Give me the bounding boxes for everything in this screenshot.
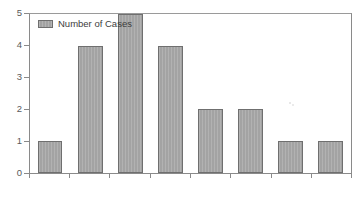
- bar: [198, 109, 223, 173]
- x-axis-tick-mark-4: [190, 174, 191, 178]
- bar: [118, 14, 143, 173]
- x-axis-tick-mark-7: [311, 174, 312, 178]
- y-axis-tick-label-5: 5: [4, 8, 22, 18]
- bar: [158, 46, 183, 173]
- plot-area: [29, 13, 352, 174]
- legend: Number of Cases: [36, 18, 134, 30]
- legend-label: Number of Cases: [58, 19, 132, 29]
- x-axis-tick-mark-8: [351, 174, 352, 178]
- bar: [38, 141, 63, 173]
- y-axis-tick-label-0: 0: [4, 168, 22, 178]
- bar: [78, 46, 103, 173]
- x-axis-tick-mark-1: [69, 174, 70, 178]
- bar: [278, 141, 303, 173]
- x-axis-tick-mark-0: [29, 174, 30, 178]
- bar-chart: 5 4 3 2 1 0 Number of Cases: [0, 0, 361, 197]
- y-axis-tick-label-4: 4: [4, 40, 22, 50]
- x-axis-tick-mark-2: [109, 174, 110, 178]
- y-axis: 5 4 3 2 1 0: [0, 0, 22, 197]
- x-axis-tick-mark-6: [271, 174, 272, 178]
- y-axis-tick-label-1: 1: [4, 136, 22, 146]
- y-axis-tick-label-2: 2: [4, 104, 22, 114]
- x-axis-tick-mark-3: [150, 174, 151, 178]
- bars-layer: [30, 14, 351, 173]
- y-axis-tick-label-3: 3: [4, 72, 22, 82]
- x-axis-tick-mark-5: [230, 174, 231, 178]
- legend-swatch-icon: [38, 20, 53, 28]
- bar: [318, 141, 343, 173]
- bar: [238, 109, 263, 173]
